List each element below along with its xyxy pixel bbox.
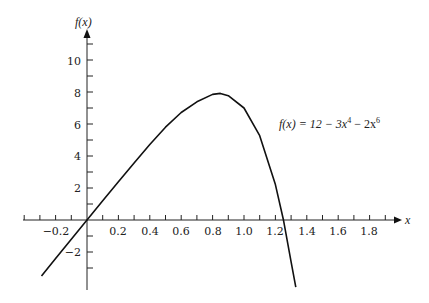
x-axis-arrow-icon — [394, 217, 402, 224]
x-tick-label: 0.8 — [204, 225, 222, 238]
formula-exponent: 6 — [376, 116, 380, 125]
x-tick-label: 0.2 — [109, 225, 127, 238]
y-tick-label: 4 — [74, 150, 81, 163]
x-tick-label: −0.2 — [43, 225, 70, 238]
x-tick-label: 1.4 — [298, 225, 316, 238]
x-tick-label: 0.4 — [141, 225, 159, 238]
x-ticks — [24, 215, 385, 220]
x-tick-label: 0.6 — [172, 225, 190, 238]
x-tick-label: 1.0 — [235, 225, 253, 238]
y-tick-label: −2 — [65, 246, 81, 259]
y-axis-label: f(x) — [75, 15, 92, 29]
x-tick-label: 1.8 — [360, 225, 378, 238]
y-tick-label: 2 — [74, 182, 81, 195]
y-axis-arrow-icon — [84, 29, 91, 38]
chart: x f(x) −0.2 0.2 0.4 0.6 0.8 1.0 1.2 1.4 … — [0, 0, 429, 303]
y-tick-label: 10 — [67, 55, 81, 68]
y-tick-label: 6 — [74, 119, 81, 132]
formula-part: f(x) = 12 − 3x — [279, 117, 348, 131]
x-tick-label: 1.2 — [266, 225, 284, 238]
y-tick-label: 8 — [74, 87, 81, 100]
formula-annotation: f(x) = 12 − 3x4 − 2x6 — [279, 116, 380, 131]
y-ticks — [87, 44, 93, 268]
x-axis-label: x — [404, 213, 411, 227]
x-tick-label: 1.6 — [329, 225, 347, 238]
formula-part: − 2x — [351, 117, 376, 131]
